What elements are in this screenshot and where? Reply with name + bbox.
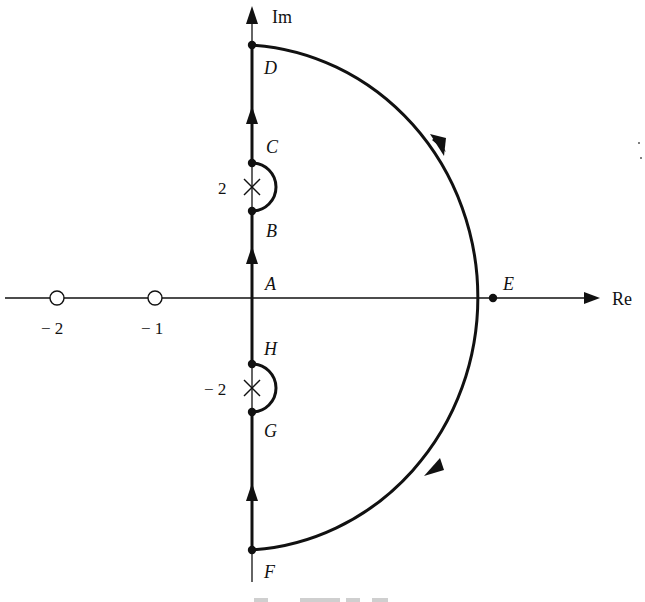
point-D: [248, 41, 256, 49]
real-axis-arrow-icon: [584, 292, 600, 304]
label-C: C: [266, 137, 279, 157]
imag-axis-arrow-icon: [246, 6, 258, 24]
label-F: F: [263, 562, 276, 582]
point-B: [248, 207, 256, 215]
pole-label-minus-j2: − 2: [204, 380, 226, 399]
pole-label-j2: 2: [218, 179, 227, 198]
direction-arrows: [246, 106, 446, 501]
label-G: G: [264, 421, 277, 441]
imag-axis-label: Im: [272, 7, 292, 27]
point-E: [489, 294, 497, 302]
real-axis-label: Re: [612, 289, 632, 309]
scan-specks: [638, 142, 642, 159]
point-G: [248, 408, 256, 416]
zero-minus-2-icon: [50, 291, 64, 305]
arrow-up-icon: [246, 483, 258, 501]
label-A: A: [264, 274, 277, 294]
point-H: [248, 360, 256, 368]
arrow-up-icon: [246, 106, 258, 124]
zero-label-minus-2: − 2: [41, 319, 63, 338]
nyquist-diagram: Im Re D C B A E H G F 2 − 2 − 2 − 1: [0, 0, 645, 602]
label-B: B: [266, 221, 277, 241]
point-C: [248, 159, 256, 167]
label-H: H: [263, 339, 278, 359]
caption-cutoff: [254, 598, 388, 602]
point-F: [248, 546, 256, 554]
zero-minus-1-icon: [148, 291, 162, 305]
arrow-up-icon: [246, 246, 258, 264]
arrow-arc-down-icon: [430, 134, 446, 156]
label-E: E: [502, 274, 514, 294]
arrow-arc-down-left-icon: [424, 458, 444, 476]
label-D: D: [263, 58, 277, 78]
zero-label-minus-1: − 1: [141, 319, 163, 338]
